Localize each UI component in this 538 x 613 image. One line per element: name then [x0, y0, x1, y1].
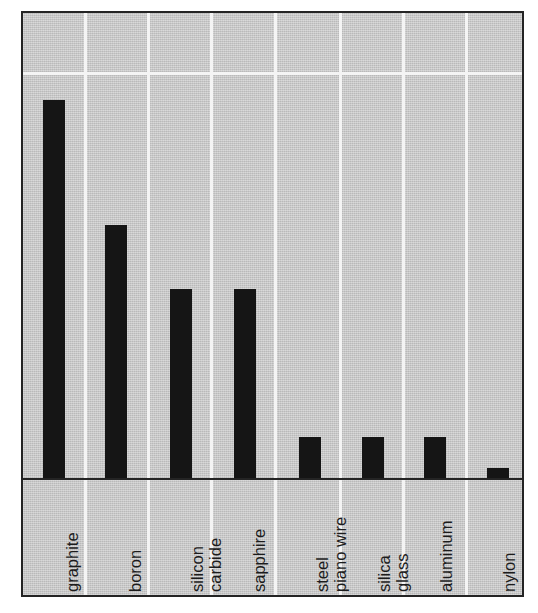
bar-silicon-carbide	[170, 289, 192, 478]
gridline-vertical	[84, 480, 87, 595]
bar-steel-piano-wire	[299, 437, 321, 478]
tick-label-steel-piano-wire: steel piano wire	[313, 488, 349, 592]
tick-label-graphite: graphite	[63, 488, 81, 592]
chart-frame: graphite boron silicon carbide sapphire …	[21, 11, 524, 597]
tick-label-aluminum: aluminum	[437, 488, 455, 592]
tick-label-silica-glass: silica glass	[375, 488, 411, 592]
gridline-vertical	[402, 13, 405, 480]
bar-sapphire	[234, 289, 256, 478]
gridline-vertical	[465, 480, 468, 595]
tick-label-boron: boron	[126, 488, 144, 592]
tick-label-nylon: nylon	[500, 488, 518, 592]
gridline-horizontal	[23, 72, 522, 75]
plot-area	[23, 13, 522, 480]
gridline-vertical	[465, 13, 468, 480]
bar-boron	[105, 225, 127, 478]
figure-canvas: graphite boron silicon carbide sapphire …	[0, 0, 538, 613]
gridline-vertical	[84, 13, 87, 480]
gridline-vertical	[147, 480, 150, 595]
gridline-vertical	[274, 13, 277, 480]
tick-label-silicon-carbide: silicon carbide	[188, 488, 224, 592]
gridline-vertical	[147, 13, 150, 480]
bar-nylon	[487, 468, 509, 478]
bar-aluminum	[424, 437, 446, 478]
x-axis-label-strip: graphite boron silicon carbide sapphire …	[23, 480, 522, 595]
gridline-vertical	[274, 480, 277, 595]
gridline-vertical	[339, 13, 342, 480]
tick-label-sapphire: sapphire	[250, 488, 268, 592]
bar-silica-glass	[362, 437, 384, 478]
bar-graphite	[43, 100, 65, 478]
gridline-vertical	[210, 13, 213, 480]
